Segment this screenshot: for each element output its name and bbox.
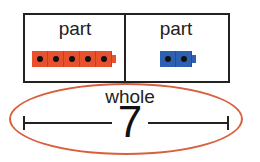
cube-icon bbox=[64, 51, 80, 67]
part-label-left: part bbox=[25, 18, 125, 40]
whole-line-left bbox=[24, 122, 112, 124]
cube-icon bbox=[80, 51, 96, 67]
whole-tick-left bbox=[23, 116, 25, 130]
whole-value: 7 bbox=[110, 98, 150, 146]
cube-nub-icon bbox=[112, 55, 116, 63]
cube-icon bbox=[96, 51, 112, 67]
part-label-right: part bbox=[126, 18, 226, 40]
red-cube-train bbox=[32, 51, 116, 67]
cube-nub-icon bbox=[192, 55, 196, 63]
blue-cube-train bbox=[160, 51, 196, 67]
cube-icon bbox=[48, 51, 64, 67]
cube-icon bbox=[160, 51, 176, 67]
whole-tick-right bbox=[227, 116, 229, 130]
cube-icon bbox=[32, 51, 48, 67]
cube-icon bbox=[176, 51, 192, 67]
whole-line-right bbox=[148, 122, 228, 124]
